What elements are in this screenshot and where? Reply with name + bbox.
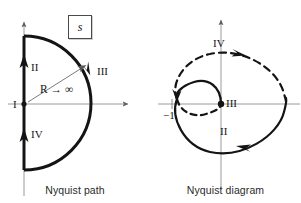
nyquist-diagram-caption: Nyquist diagram [150, 184, 301, 196]
nyquist-path-caption: Nyquist path [0, 184, 150, 196]
s-plane-tag: s [68, 15, 92, 39]
label-radius-annotation: R → ∞ [40, 84, 73, 96]
label-segment-iv: IV [213, 38, 225, 49]
label-segment-iv: IV [31, 129, 43, 140]
label-segment-ii: II [220, 126, 227, 137]
label-segment-ii: II [31, 62, 38, 73]
label-critical-point: −1 [163, 110, 175, 121]
figure-root: s I II III IV R → ∞ Nyquist path [0, 0, 301, 203]
nyquist-path-panel: s I II III IV R → ∞ Nyquist path [0, 0, 150, 203]
nyquist-diagram-panel: G(s)H −1 III IV II Nyquist diagram [150, 0, 301, 203]
label-segment-iii: III [226, 98, 237, 109]
curve-small-loop-dashed [177, 99, 221, 115]
contour-semicircular-arc [24, 36, 91, 170]
s-plane-tag-label: s [78, 21, 83, 33]
origin-point-marker [21, 101, 26, 106]
label-segment-i: I [13, 99, 17, 110]
curve-segment-iv-dashed [175, 53, 286, 102]
label-segment-iii: III [97, 66, 108, 77]
origin-point-marker [218, 101, 224, 107]
curve-small-loop-solid [176, 81, 221, 104]
